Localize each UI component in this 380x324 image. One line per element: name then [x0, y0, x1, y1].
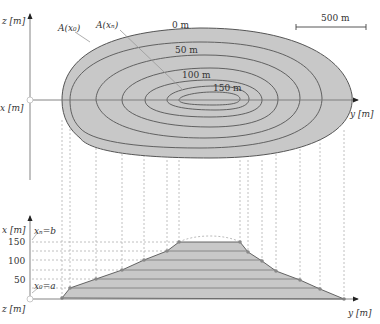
contour-0m [62, 28, 352, 158]
top-y-axis-label: y [m] [349, 109, 374, 119]
tick-50: 50 [14, 275, 26, 285]
scale-bar-label: 500 m [321, 13, 350, 23]
lower-bound-label: x₀=a [34, 281, 56, 291]
area-label-an: A(xₙ) [95, 20, 119, 30]
contour-label-50m: 50 m [175, 45, 198, 55]
side-y-axis-label: y [m] [347, 308, 372, 318]
top-z-axis-label: z [m] [1, 16, 26, 26]
top-x-axis-label: x [m] [0, 103, 24, 113]
diagram-canvas: z [m] x [m] y [m] 500 m A(x₀) A(xₙ) 0 m … [0, 0, 380, 324]
contour-map [62, 28, 352, 158]
side-z-axis-label: z [m] [1, 304, 26, 314]
origin-marker [27, 97, 33, 103]
side-profile [32, 232, 346, 301]
side-origin-marker [27, 296, 33, 302]
contour-label-150m: 150 m [213, 83, 242, 93]
upper-bound-label: xₙ=b [34, 226, 56, 236]
tick-150: 150 [8, 237, 25, 247]
tick-100: 100 [8, 256, 25, 266]
contour-label-100m: 100 m [182, 70, 211, 80]
area-label-a0: A(x₀) [57, 23, 81, 33]
contour-label-0m: 0 m [172, 20, 190, 30]
scale-bar [296, 24, 366, 30]
side-x-axis-label: x [m] [2, 225, 26, 235]
